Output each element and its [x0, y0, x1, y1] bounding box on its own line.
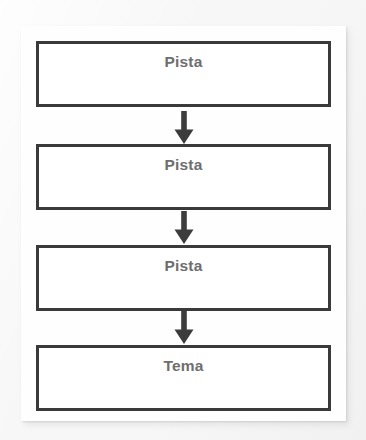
flow-node-4-label: Tema	[39, 357, 328, 375]
arrow-down-icon	[172, 311, 196, 345]
flow-node-4[interactable]: Tema	[36, 345, 331, 411]
arrow-down-icon	[172, 111, 196, 145]
flow-node-3[interactable]: Pista	[36, 245, 331, 311]
flow-node-2-label: Pista	[39, 156, 328, 174]
flow-node-1[interactable]: Pista	[36, 41, 331, 107]
diagram-card: Pista Pista Pista	[21, 26, 346, 421]
flow-node-2[interactable]: Pista	[36, 144, 331, 210]
flow-node-3-label: Pista	[39, 257, 328, 275]
flow-node-1-label: Pista	[39, 53, 328, 71]
diagram-canvas: Pista Pista Pista	[0, 0, 366, 440]
flowchart: Pista Pista Pista	[36, 41, 331, 408]
arrow-down-icon	[172, 211, 196, 245]
